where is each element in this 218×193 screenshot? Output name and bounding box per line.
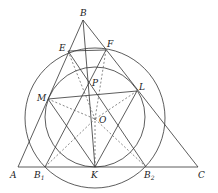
segment-lk (95, 91, 137, 167)
label-p: P (91, 78, 99, 88)
segment-ef (68, 50, 106, 51)
label-b2: B2 (143, 170, 155, 181)
segment-ml (48, 91, 137, 99)
label-e: E (58, 43, 66, 53)
diagram-canvas: B E F P M L O A K C B1 B2 (0, 0, 218, 193)
label-f: F (106, 39, 114, 49)
label-a: A (9, 170, 17, 180)
label-b: B (79, 8, 87, 18)
label-b1: B1 (33, 170, 44, 181)
label-l: L (138, 82, 145, 92)
label-k: K (90, 170, 99, 180)
label-m: M (36, 93, 47, 103)
geometry-diagram: B E F P M L O A K C B1 B2 (0, 0, 218, 193)
label-c: C (198, 170, 205, 180)
label-o: O (99, 115, 107, 125)
